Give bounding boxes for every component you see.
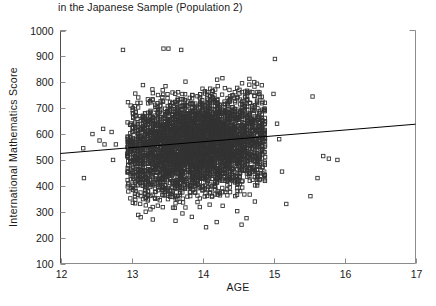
y-tick-label: 100 bbox=[36, 258, 54, 270]
data-point bbox=[285, 202, 288, 205]
data-point bbox=[103, 143, 106, 146]
chart-figure: in the Japanese Sample (Population 2) 10… bbox=[0, 0, 436, 306]
data-point bbox=[166, 197, 169, 200]
data-point bbox=[245, 216, 248, 219]
data-point bbox=[149, 208, 152, 211]
data-point bbox=[151, 91, 154, 94]
scatter-plot: 1002003004005006007008009001000 12131415… bbox=[0, 0, 436, 306]
data-point bbox=[273, 57, 276, 60]
data-point bbox=[322, 154, 325, 157]
data-points-layer bbox=[82, 47, 340, 229]
x-axis-title: AGE bbox=[226, 281, 249, 293]
y-tick-label: 300 bbox=[36, 206, 54, 218]
data-point bbox=[98, 139, 101, 142]
x-tick-label: 17 bbox=[411, 268, 423, 280]
data-point bbox=[82, 176, 85, 179]
y-tick-label: 600 bbox=[36, 128, 54, 140]
data-point bbox=[236, 209, 239, 212]
y-tick-label: 400 bbox=[36, 180, 54, 192]
data-point bbox=[253, 200, 256, 203]
y-tick-label: 800 bbox=[36, 76, 54, 88]
y-axis-title: International Mathematics Score bbox=[7, 67, 19, 227]
data-point bbox=[110, 130, 113, 133]
data-point bbox=[166, 96, 169, 99]
data-point bbox=[240, 223, 243, 226]
x-tick-label: 13 bbox=[127, 268, 139, 280]
data-point bbox=[156, 93, 159, 96]
data-point bbox=[144, 210, 147, 213]
data-point bbox=[141, 83, 144, 86]
data-point bbox=[82, 147, 85, 150]
data-point bbox=[91, 132, 94, 135]
data-point bbox=[114, 143, 117, 146]
data-point bbox=[198, 205, 201, 208]
data-point bbox=[272, 92, 275, 95]
data-point bbox=[126, 100, 129, 103]
data-point bbox=[204, 226, 207, 229]
data-point bbox=[260, 84, 263, 87]
data-point bbox=[208, 203, 211, 206]
data-point bbox=[151, 218, 154, 221]
data-point bbox=[144, 204, 147, 207]
data-point bbox=[151, 205, 154, 208]
data-point bbox=[111, 158, 114, 161]
y-tick-label: 200 bbox=[36, 232, 54, 244]
x-tick-label: 15 bbox=[269, 268, 281, 280]
data-point bbox=[161, 206, 164, 209]
x-tick-label: 16 bbox=[340, 268, 352, 280]
y-tick-label: 1000 bbox=[30, 25, 54, 37]
data-point bbox=[221, 204, 224, 207]
data-point bbox=[180, 48, 183, 51]
data-point bbox=[275, 122, 278, 125]
data-point bbox=[240, 82, 243, 85]
data-point bbox=[137, 96, 140, 99]
data-point bbox=[223, 86, 226, 89]
data-point bbox=[215, 220, 218, 223]
data-point bbox=[220, 93, 223, 96]
data-point bbox=[311, 95, 314, 98]
data-point bbox=[248, 77, 251, 80]
x-tick-label: 12 bbox=[56, 268, 68, 280]
data-point bbox=[215, 78, 218, 81]
data-point bbox=[190, 215, 193, 218]
data-point bbox=[151, 88, 154, 91]
data-point bbox=[309, 194, 312, 197]
data-point bbox=[129, 197, 132, 200]
data-point bbox=[221, 186, 224, 189]
x-axis-ticks: 121314151617 bbox=[56, 259, 423, 280]
data-point bbox=[121, 48, 124, 51]
data-point bbox=[164, 84, 167, 87]
data-point bbox=[166, 92, 169, 95]
data-point bbox=[138, 202, 141, 205]
data-point bbox=[184, 206, 187, 209]
data-point bbox=[327, 157, 330, 160]
data-point bbox=[174, 219, 177, 222]
data-point bbox=[101, 127, 104, 130]
data-point bbox=[216, 84, 219, 87]
y-tick-label: 700 bbox=[36, 102, 54, 114]
x-tick-label: 14 bbox=[198, 268, 210, 280]
y-tick-label: 500 bbox=[36, 154, 54, 166]
data-point bbox=[280, 170, 283, 173]
data-point bbox=[196, 200, 199, 203]
y-tick-label: 900 bbox=[36, 50, 54, 62]
data-point bbox=[243, 193, 246, 196]
data-point bbox=[316, 176, 319, 179]
data-point bbox=[134, 92, 137, 95]
data-point bbox=[228, 88, 231, 91]
data-point bbox=[336, 158, 339, 161]
data-point bbox=[167, 47, 170, 50]
data-point bbox=[161, 89, 164, 92]
data-point bbox=[248, 193, 251, 196]
data-point bbox=[156, 204, 159, 207]
data-point bbox=[162, 47, 165, 50]
data-point bbox=[221, 77, 224, 80]
data-point bbox=[277, 138, 280, 141]
data-point bbox=[174, 202, 177, 205]
data-point bbox=[181, 212, 184, 215]
data-point bbox=[248, 83, 251, 86]
data-point bbox=[184, 80, 187, 83]
